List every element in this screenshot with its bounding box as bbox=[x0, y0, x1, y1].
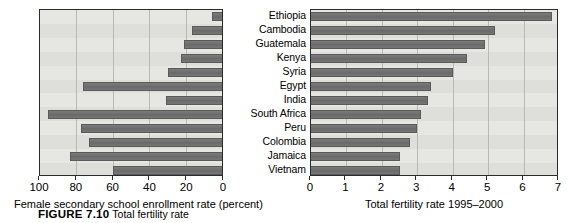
tick-mark bbox=[309, 176, 310, 180]
left-axis-tick-label: 60 bbox=[93, 181, 133, 193]
figure-caption-text: Total fertility rate bbox=[112, 208, 188, 220]
tick-mark bbox=[522, 176, 523, 180]
bar-right-cambodia bbox=[310, 26, 495, 35]
right-chart-plot-area bbox=[310, 9, 558, 176]
right-axis-tick-label: 3 bbox=[401, 181, 431, 193]
bar-right-syria bbox=[310, 68, 453, 77]
figure-caption-label: FIGURE 7.10 bbox=[38, 208, 109, 220]
bar-left-south-africa bbox=[48, 110, 223, 119]
tick-mark bbox=[222, 176, 223, 180]
gridline bbox=[76, 10, 77, 175]
bar-right-india bbox=[310, 96, 428, 105]
bar-left-ethiopia bbox=[212, 12, 223, 21]
figure-caption: FIGURE 7.10 Total fertility rate bbox=[38, 208, 189, 221]
bar-left-cambodia bbox=[192, 26, 223, 35]
tick-mark bbox=[557, 176, 558, 180]
tick-mark bbox=[185, 176, 186, 180]
bar-left-peru bbox=[81, 124, 223, 133]
right-axis-tick-label: 4 bbox=[437, 181, 467, 193]
tick-mark bbox=[75, 176, 76, 180]
left-axis-tick-label: 20 bbox=[166, 181, 206, 193]
country-label-peru: Peru bbox=[284, 122, 306, 133]
right-axis-tick-label: 7 bbox=[543, 181, 567, 193]
bar-left-syria bbox=[168, 68, 223, 77]
country-label-colombia: Colombia bbox=[262, 136, 306, 147]
country-label-column: EthiopiaCambodiaGuatemalaKenyaSyriaEgypt… bbox=[225, 9, 308, 176]
bar-left-guatemala bbox=[184, 40, 223, 49]
left-chart-plot-area bbox=[39, 9, 223, 176]
right-axis-tick-label: 6 bbox=[508, 181, 538, 193]
bar-left-egypt bbox=[83, 82, 223, 91]
country-label-south-africa: South Africa bbox=[251, 108, 306, 119]
country-label-jamaica: Jamaica bbox=[268, 150, 306, 161]
bar-right-jamaica bbox=[310, 152, 400, 161]
gridline bbox=[149, 10, 150, 175]
bar-right-south-africa bbox=[310, 110, 421, 119]
right-axis-tick-label: 0 bbox=[295, 181, 325, 193]
tick-mark bbox=[38, 176, 39, 180]
bar-right-guatemala bbox=[310, 40, 485, 49]
tick-mark bbox=[451, 176, 452, 180]
bar-right-egypt bbox=[310, 82, 431, 91]
gridline bbox=[524, 10, 525, 175]
bar-left-india bbox=[166, 96, 223, 105]
right-axis-tick-label: 1 bbox=[330, 181, 360, 193]
figure-container: EthiopiaCambodiaGuatemalaKenyaSyriaEgypt… bbox=[0, 0, 567, 223]
bar-right-vietnam bbox=[310, 166, 400, 175]
left-axis-tick-label: 80 bbox=[56, 181, 96, 193]
tick-mark bbox=[380, 176, 381, 180]
country-label-vietnam: Vietnam bbox=[268, 164, 306, 175]
gridline bbox=[113, 10, 114, 175]
country-label-cambodia: Cambodia bbox=[259, 24, 306, 35]
country-label-egypt: Egypt bbox=[280, 80, 306, 91]
bar-left-colombia bbox=[89, 138, 223, 147]
gridline bbox=[186, 10, 187, 175]
tick-mark bbox=[344, 176, 345, 180]
tick-mark bbox=[486, 176, 487, 180]
bar-right-ethiopia bbox=[310, 12, 552, 21]
bar-left-vietnam bbox=[113, 166, 223, 175]
left-axis-tick-label: 40 bbox=[129, 181, 169, 193]
tick-mark bbox=[148, 176, 149, 180]
left-axis-tick-label: 0 bbox=[203, 181, 243, 193]
right-chart-axis-title: Total fertility rate 1995–2000 bbox=[310, 198, 558, 210]
bar-left-kenya bbox=[181, 54, 223, 63]
right-axis-tick-label: 2 bbox=[366, 181, 396, 193]
tick-mark bbox=[415, 176, 416, 180]
left-axis-tick-label: 100 bbox=[19, 181, 59, 193]
country-label-guatemala: Guatemala bbox=[256, 38, 306, 49]
country-label-syria: Syria bbox=[283, 66, 306, 77]
country-label-ethiopia: Ethiopia bbox=[269, 10, 306, 21]
bar-right-peru bbox=[310, 124, 417, 133]
country-label-kenya: Kenya bbox=[277, 52, 306, 63]
chart-row-band bbox=[40, 10, 222, 24]
bar-right-colombia bbox=[310, 138, 410, 147]
tick-mark bbox=[112, 176, 113, 180]
right-axis-tick-label: 5 bbox=[472, 181, 502, 193]
country-label-india: India bbox=[284, 94, 306, 105]
bar-right-kenya bbox=[310, 54, 467, 63]
bar-left-jamaica bbox=[70, 152, 223, 161]
